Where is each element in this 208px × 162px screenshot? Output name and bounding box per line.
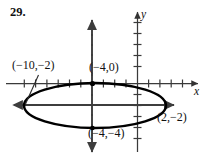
ellipse-figure: 29. (−10,−2) (−4,0) (−4,−4) (2,−2) y x (0, 0, 208, 162)
point-co-vertex-top (90, 81, 95, 86)
leader-line-group (26, 75, 39, 104)
x-axis-label: x (194, 86, 199, 98)
problem-number: 29. (10, 6, 26, 19)
point-label-vertex-right: (2,−2) (157, 111, 187, 123)
point-label-co-vertex-top: (−4,0) (89, 61, 119, 73)
point-label-co-vertex-bottom: (−4,−4) (88, 127, 125, 139)
point-label-vertex-left: (−10,−2) (12, 59, 55, 71)
leader-line-vertex-left (26, 75, 39, 104)
y-axis-label: y (141, 9, 146, 21)
